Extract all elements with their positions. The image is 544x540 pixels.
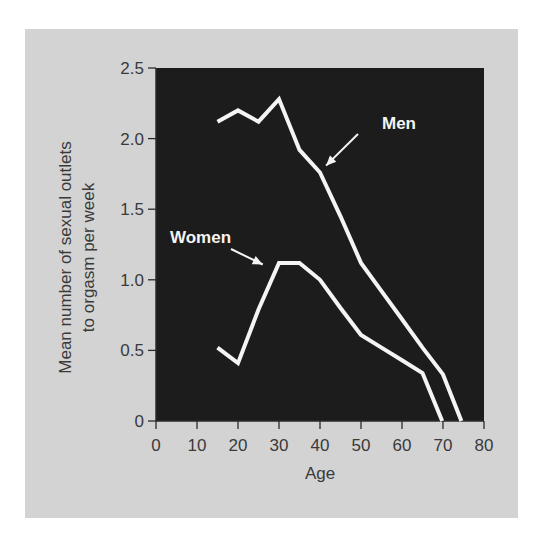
- y-tick-label: 1.0: [120, 271, 144, 290]
- x-tick-label: 80: [475, 436, 494, 455]
- x-tick-label: 20: [229, 436, 248, 455]
- y-tick-label: 1.5: [120, 200, 144, 219]
- y-axis-title-line-2: to orgasm per week: [79, 182, 98, 332]
- x-tick-label: 70: [434, 436, 453, 455]
- x-tick-label: 40: [311, 436, 330, 455]
- x-tick-label: 50: [352, 436, 371, 455]
- x-tick-label: 0: [151, 436, 160, 455]
- figure-panel: 00.51.01.52.02.501020304050607080 MenWom…: [25, 29, 518, 518]
- y-tick-label: 2.5: [120, 59, 144, 78]
- x-tick-label: 60: [393, 436, 412, 455]
- series-label-women: Women: [170, 228, 231, 247]
- series-label-men: Men: [382, 114, 416, 133]
- x-axis-title: Age: [305, 464, 335, 483]
- y-tick-label: 2.0: [120, 130, 144, 149]
- x-tick-label: 30: [270, 436, 289, 455]
- x-tick-label: 10: [188, 436, 207, 455]
- line-chart: 00.51.01.52.02.501020304050607080 MenWom…: [25, 29, 518, 518]
- y-axis-title-line-1: Mean number of sexual outlets: [56, 141, 75, 373]
- y-tick-label: 0: [135, 412, 144, 431]
- y-tick-label: 0.5: [120, 341, 144, 360]
